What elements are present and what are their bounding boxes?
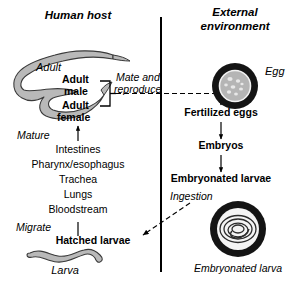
- adult-female-label-line2: female: [57, 112, 90, 123]
- adult-male-label-line2: male: [64, 86, 88, 97]
- hatched-larvae-label: Hatched larvae: [56, 235, 131, 246]
- larva-icon: [27, 249, 102, 262]
- migration-step-lungs: Lungs: [64, 189, 93, 200]
- stage-embryos: Embryos: [199, 140, 244, 151]
- adult-male-label-line1: Adult: [62, 74, 89, 85]
- migration-step-pharynx-esophagus: Pharynx/esophagus: [32, 159, 125, 170]
- ingestion-label: Ingestion: [170, 191, 213, 202]
- stage-fertilized-eggs: Fertilized eggs: [184, 107, 258, 118]
- embryonated-larva-label: Embryonated larva: [194, 263, 282, 274]
- stage-embryonated-larvae: Embryonated larvae: [171, 173, 271, 184]
- header-external-environment-line1: External: [212, 6, 257, 18]
- migration-step-bloodstream: Bloodstream: [49, 204, 108, 215]
- mate-reproduce-label-line1: Mate and: [116, 72, 160, 83]
- diagram-canvas: Human host External environment Adult Ad…: [0, 0, 301, 283]
- mate-reproduce-label-line2: reproduce: [114, 84, 161, 95]
- adult-female-label-line1: Adult: [62, 100, 89, 111]
- migration-step-intestines: Intestines: [56, 144, 101, 155]
- mature-label: Mature: [17, 130, 50, 141]
- adult-worm-label: Adult: [36, 62, 61, 74]
- egg-label: Egg: [265, 66, 285, 78]
- migration-step-trachea: Trachea: [59, 174, 97, 185]
- egg-icon: [212, 63, 258, 109]
- header-human-host: Human host: [45, 9, 111, 21]
- larva-label: Larva: [51, 265, 79, 277]
- migrate-label: Migrate: [16, 222, 51, 233]
- diagram-graphics: [0, 0, 301, 283]
- header-external-environment-line2: environment: [200, 20, 269, 32]
- ingestion-arrow: [143, 203, 190, 235]
- embryonated-larva-icon: [210, 201, 266, 257]
